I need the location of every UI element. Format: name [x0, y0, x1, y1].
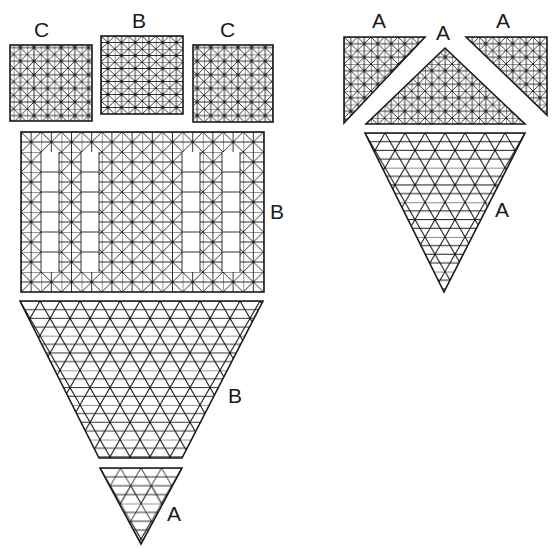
label-b-top: B	[132, 9, 146, 32]
label-b-trapezoid: B	[228, 384, 242, 407]
piece-b-trapezoid	[20, 301, 263, 458]
piece-c-right-square	[193, 45, 273, 122]
pattern-diagram: C B C B B	[0, 0, 558, 548]
label-a-large: A	[495, 198, 509, 221]
label-a-center: A	[436, 21, 450, 44]
label-a-top-right: A	[496, 9, 510, 32]
piece-b-top-square	[101, 36, 183, 114]
label-c-left: C	[34, 18, 49, 41]
label-a-top-left: A	[372, 9, 386, 32]
label-b-rectangle: B	[270, 200, 284, 223]
piece-b-rectangle	[21, 132, 264, 292]
label-a-small: A	[167, 502, 181, 525]
piece-c-left-square	[10, 45, 92, 121]
label-c-right: C	[220, 18, 235, 41]
